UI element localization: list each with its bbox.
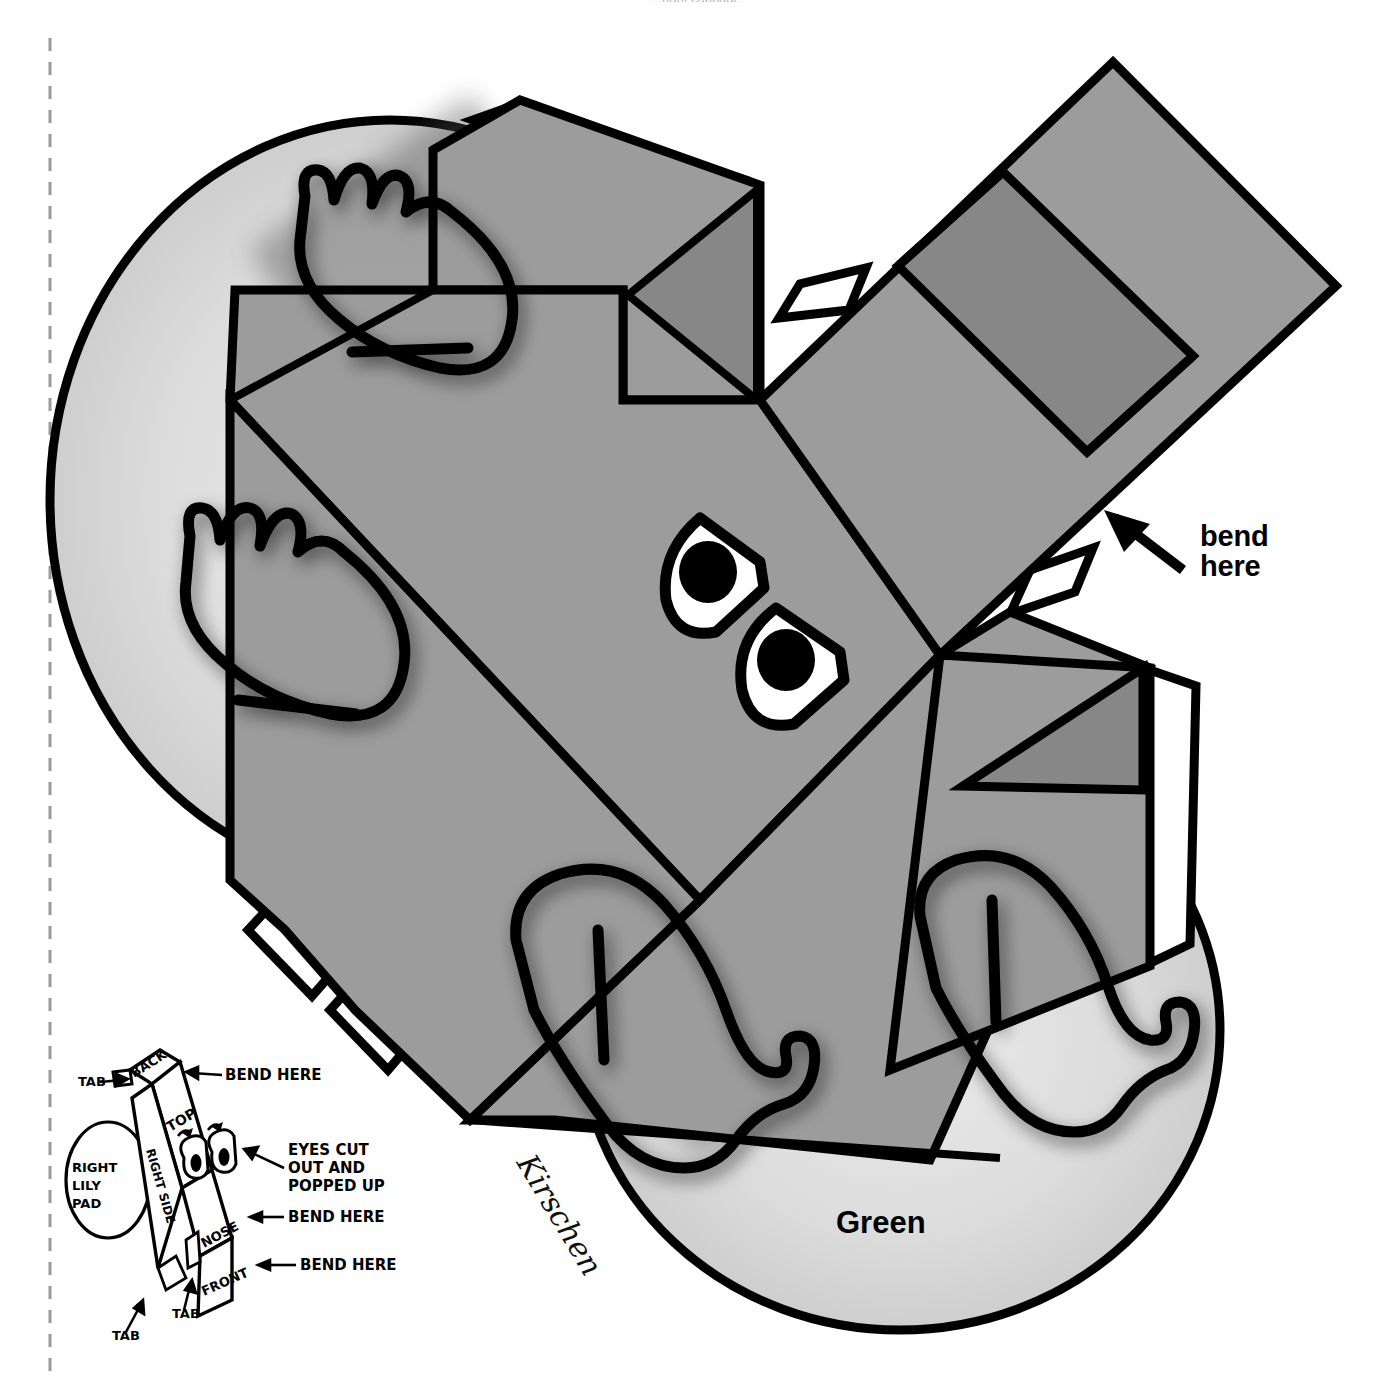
mini-label-tab-mid: TAB [172,1306,200,1321]
mini-label-eyes-l3: POPPED UP [288,1177,385,1195]
mini-label-lilypad-l2: LILY [72,1178,101,1193]
mini-tab-bottom [158,1256,186,1290]
mini-label-lilypad-l3: PAD [72,1196,101,1211]
instruction-diagram: BACK TAB TOP RIGHT SIDE RIGHT LILY PAD N… [0,0,1392,1395]
mini-label-eyes-l1: EYES CUT [288,1141,370,1159]
mini-label-eyes-l2: OUT AND [288,1159,365,1177]
mini-label-bend-here-3: BEND HERE [300,1256,397,1274]
mini-label-bend-here-1: BEND HERE [225,1066,322,1084]
mini-label-bend-here-2: BEND HERE [288,1208,385,1226]
mini-label-lilypad-l1: RIGHT [72,1160,117,1175]
mini-eyes [178,1122,236,1178]
craft-sheet-page: ...right cabbage [0,0,1392,1395]
